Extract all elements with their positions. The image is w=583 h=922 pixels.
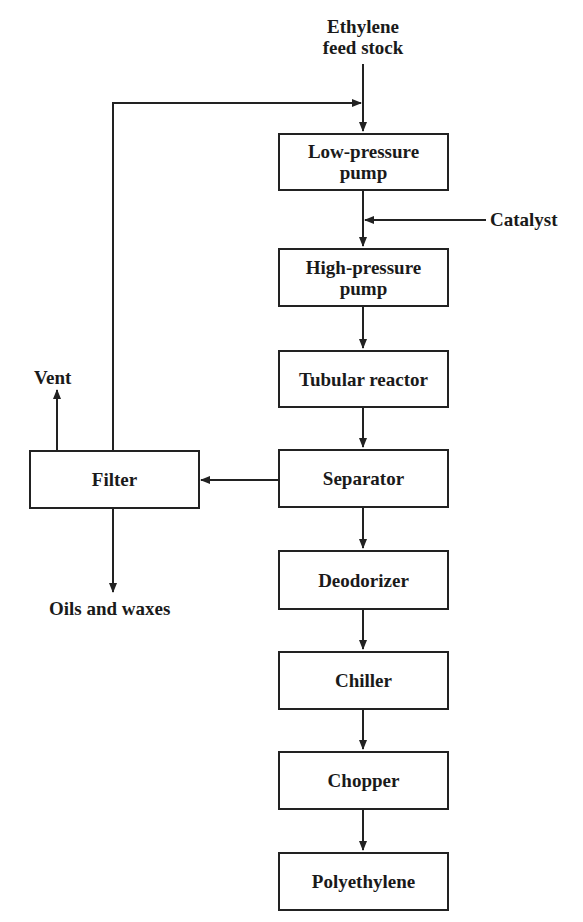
separator-label: Separator (323, 468, 404, 489)
low-pressure-pump-label: Low-pressure (308, 141, 419, 162)
chiller-label: Chiller (335, 670, 392, 691)
vent-label: Vent (34, 367, 71, 388)
polyethylene-label: Polyethylene (312, 871, 415, 892)
filter-box: Filter (29, 450, 200, 509)
high-pressure-pump-label: High-pressure (306, 257, 421, 278)
chiller-box: Chiller (278, 651, 449, 710)
high-pressure-pump-box: High-pressure pump (278, 248, 449, 307)
chopper-label: Chopper (328, 770, 400, 791)
oils-and-waxes-label: Oils and waxes (49, 598, 170, 619)
chopper-box: Chopper (278, 751, 449, 810)
catalyst-label: Catalyst (490, 209, 558, 230)
deodorizer-box: Deodorizer (278, 550, 449, 610)
feed-label-line2: feed stock (298, 37, 428, 58)
polyethylene-box: Polyethylene (278, 852, 449, 911)
filter-label: Filter (92, 469, 137, 490)
feed-label: Ethylene feed stock (298, 16, 428, 58)
low-pressure-pump-label-2: pump (340, 162, 388, 183)
deodorizer-label: Deodorizer (318, 570, 409, 591)
tubular-reactor-box: Tubular reactor (278, 350, 449, 408)
feed-label-line1: Ethylene (298, 16, 428, 37)
separator-box: Separator (278, 449, 449, 508)
tubular-reactor-label: Tubular reactor (299, 369, 428, 390)
low-pressure-pump-box: Low-pressure pump (278, 133, 449, 191)
high-pressure-pump-label-2: pump (340, 278, 388, 299)
